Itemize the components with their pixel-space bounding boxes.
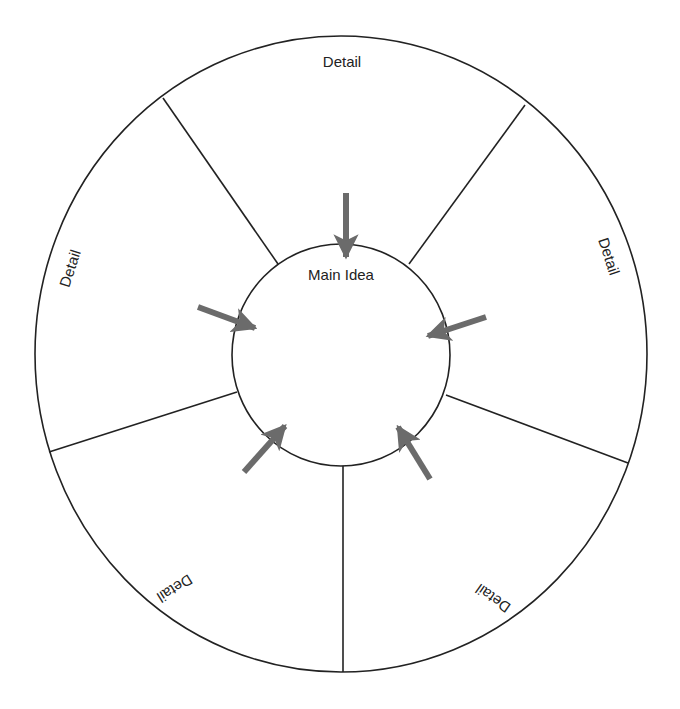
- divider-lower-right: [446, 395, 628, 463]
- detail-label-right: Detail: [595, 235, 623, 277]
- main-idea-wheel-diagram: Main Idea Detail Detail Detail Detail De…: [0, 0, 680, 709]
- main-idea-label: Main Idea: [308, 266, 375, 283]
- divider-lower-left: [49, 392, 237, 452]
- divider-upper-left: [163, 98, 278, 264]
- detail-label-top: Detail: [323, 53, 361, 70]
- divider-upper-right: [409, 105, 525, 264]
- detail-label-bottom-right: Detail: [472, 581, 513, 617]
- detail-label-bottom-left: Detail: [154, 571, 196, 606]
- detail-label-left: Detail: [56, 247, 84, 289]
